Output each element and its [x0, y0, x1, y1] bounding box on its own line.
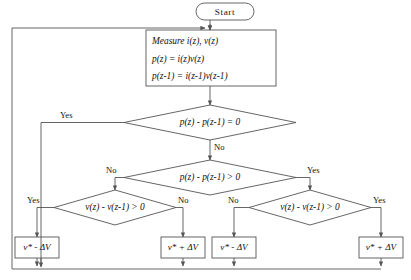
edge-label-decision1-yes: Yes [60, 110, 73, 120]
edge-decision3left-no [176, 208, 183, 238]
out2-box-shape [161, 237, 205, 258]
decision3-left-shape [54, 190, 176, 225]
out1-box-shape [15, 237, 59, 258]
edge-decision1-yes [41, 123, 124, 267]
flowchart-canvas: Start Measure i(z), v(z) p(z) = i(z)v(z)… [0, 0, 411, 280]
edge-label-decision3left-no: No [178, 195, 189, 205]
edge-label-decision2-yes: Yes [307, 165, 320, 175]
measure-box-shape [146, 30, 276, 86]
flowchart-graphics [0, 0, 411, 280]
edge-label-decision3left-yes: Yes [27, 195, 40, 205]
out3-box-shape [212, 237, 256, 258]
edge-decision3right-no [234, 208, 249, 238]
decision1-shape [124, 105, 296, 140]
edge-label-decision2-no: No [106, 165, 117, 175]
edge-decision2-yes [296, 178, 310, 191]
edge-decision2-no [115, 178, 124, 191]
edge-decision3left-yes [37, 208, 54, 238]
out4-box-shape [359, 237, 403, 258]
edge-label-decision1-no: No [214, 142, 225, 152]
start-terminator-shape [196, 3, 254, 20]
edge-decision3right-yes [371, 208, 381, 238]
edge-label-decision3right-no: No [228, 195, 239, 205]
decision2-shape [124, 160, 296, 195]
edge-label-decision3right-yes: Yes [373, 195, 386, 205]
decision3-right-shape [249, 190, 371, 225]
